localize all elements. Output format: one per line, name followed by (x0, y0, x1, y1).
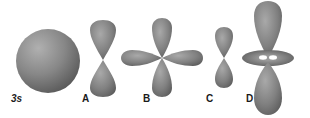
label-c: C (206, 94, 213, 104)
label-d: D (246, 94, 253, 104)
label-a: A (82, 94, 89, 104)
orbital-c-dumbbell (215, 27, 233, 88)
orbital-a-dumbbell (90, 20, 116, 97)
label-b: B (143, 94, 150, 104)
orbital-diagram (0, 0, 310, 118)
orbital-3s-sphere (16, 29, 80, 93)
label-3s: 3s (11, 94, 22, 104)
orbital-b-cloverleaf (121, 18, 203, 97)
